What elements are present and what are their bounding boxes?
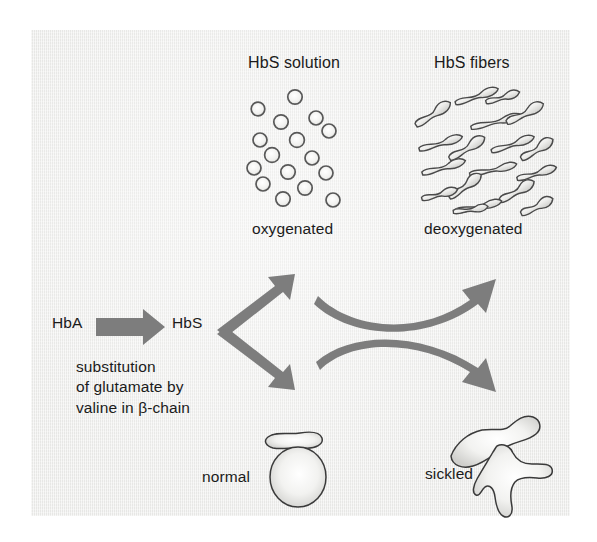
label-substitution-caption: substitution of glutamate by valine in β… <box>76 357 236 418</box>
hbs-fiber <box>421 186 459 203</box>
normal-cell-edge-view <box>266 432 323 448</box>
hbs-fiber <box>516 163 558 182</box>
mutation-arrow <box>96 309 165 345</box>
hb-molecule-circle <box>251 102 265 116</box>
hb-molecule-circle <box>305 151 319 165</box>
hbs-fiber <box>418 133 464 153</box>
hb-molecule-circle <box>326 193 340 207</box>
label-oxygenated: oxygenated <box>252 220 333 239</box>
hbs-fiber <box>497 177 536 205</box>
hb-molecule-circle <box>274 115 288 129</box>
hbs-fiber <box>421 157 467 177</box>
label-hba: HbA <box>52 314 82 333</box>
branch-arrow-up <box>217 274 295 337</box>
label-sickled: sickled <box>425 465 473 484</box>
hb-molecule-circle <box>290 133 305 148</box>
hbs-fiber-group <box>413 85 558 218</box>
normal-cell-face-view <box>270 447 326 507</box>
label-normal: normal <box>202 468 250 487</box>
label-hbs-fibers: HbS fibers <box>434 53 510 73</box>
sickling-arrow <box>316 339 496 392</box>
normal-cell-group <box>266 432 326 507</box>
hb-molecule-circle <box>288 90 302 104</box>
deoxygenation-arrow <box>314 279 496 332</box>
hb-molecule-circle <box>276 192 290 206</box>
figure-graphics-layer <box>0 0 597 542</box>
substitution-line-3: valine in β-chain <box>76 398 236 418</box>
substitution-line-1: substitution <box>76 357 236 377</box>
label-deoxygenated: deoxygenated <box>424 220 523 239</box>
hbs-solution-molecules <box>247 90 340 207</box>
hb-molecule-circle <box>247 161 261 175</box>
hb-molecule-circle <box>322 124 336 138</box>
label-hbs-solution: HbS solution <box>248 53 340 73</box>
hbs-fiber <box>446 170 484 201</box>
substitution-line-2: of glutamate by <box>76 377 236 397</box>
hbs-fiber <box>453 203 489 215</box>
hb-molecule-circle <box>256 177 270 191</box>
hbs-fiber <box>413 98 453 129</box>
hb-molecule-circle <box>265 148 280 163</box>
hb-molecule-circle <box>319 166 333 180</box>
hb-molecule-circle <box>298 181 312 195</box>
hb-molecule-circle <box>253 133 267 147</box>
hbs-fiber <box>504 99 546 127</box>
figure-root: HbS solution HbS fibers oxygenated deoxy… <box>0 0 597 542</box>
hb-molecule-circle <box>281 165 295 179</box>
hbs-fiber <box>519 194 555 218</box>
hb-molecule-circle <box>309 111 323 125</box>
label-hbs: HbS <box>172 314 202 333</box>
